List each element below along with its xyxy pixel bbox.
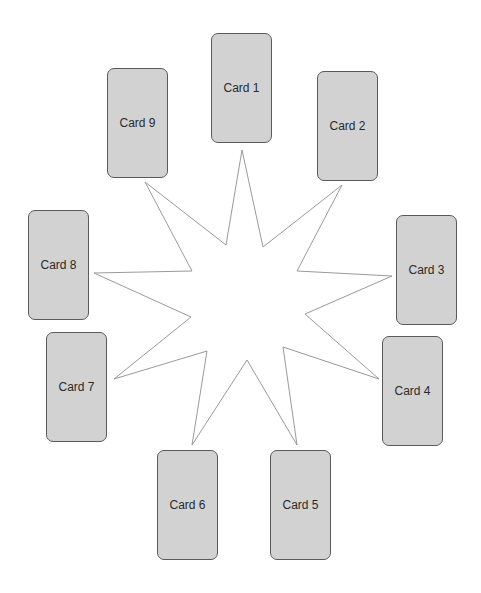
card-label: Card 3	[408, 263, 444, 277]
card-3[interactable]: Card 3	[396, 215, 457, 325]
card-7[interactable]: Card 7	[46, 332, 107, 442]
card-1[interactable]: Card 1	[211, 33, 272, 143]
card-4[interactable]: Card 4	[382, 336, 443, 446]
card-label: Card 1	[223, 81, 259, 95]
card-label: Card 9	[119, 116, 155, 130]
card-5[interactable]: Card 5	[270, 450, 331, 560]
card-label: Card 6	[169, 498, 205, 512]
card-9[interactable]: Card 9	[107, 68, 168, 178]
card-label: Card 2	[329, 119, 365, 133]
card-2[interactable]: Card 2	[317, 71, 378, 181]
card-label: Card 7	[58, 380, 94, 394]
card-8[interactable]: Card 8	[28, 210, 89, 320]
star-outline	[94, 150, 392, 445]
card-6[interactable]: Card 6	[157, 450, 218, 560]
card-label: Card 8	[40, 258, 76, 272]
card-label: Card 5	[282, 498, 318, 512]
card-label: Card 4	[394, 384, 430, 398]
